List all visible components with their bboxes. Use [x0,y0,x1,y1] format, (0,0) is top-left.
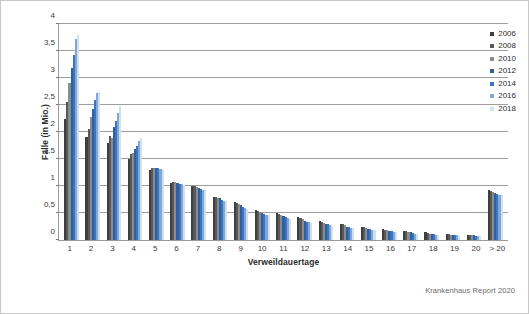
x-tick-label: 17 [407,244,416,253]
x-axis-title: Verweildauertage [59,257,508,267]
bar [98,92,100,240]
x-tick-label: 3 [110,244,114,253]
bar [289,219,291,240]
bar-group [336,24,357,240]
bar [352,228,354,240]
x-tick-label: 19 [450,244,459,253]
x-tick-label: 11 [279,244,287,253]
y-tick-label: 1 [51,173,55,182]
x-tick-label: 2 [89,244,93,253]
x-tick-label: 4 [132,244,136,253]
y-tick-label: 4 [51,11,55,20]
legend-swatch-icon [490,82,494,86]
y-tick-label: 2,5 [44,92,55,101]
legend-swatch-icon [490,44,494,48]
bar-group [464,24,485,240]
bar [77,35,79,240]
legend-item[interactable]: 2008 [490,41,516,52]
bar [373,230,375,240]
x-tick-label: 12 [300,244,309,253]
legend-item[interactable]: 2006 [490,28,516,39]
legend-swatch-icon [490,57,494,61]
x-tick-label: 13 [322,244,331,253]
legend-swatch-icon [490,94,494,98]
chart-legend: 2006200820102012201420162018 [490,28,516,114]
x-tick-label: 5 [153,244,157,253]
bar-group [61,24,82,240]
bar-group [442,24,463,240]
x-tick-label: 10 [258,244,267,253]
bar [246,209,248,240]
bar-group [103,24,124,240]
legend-item[interactable]: 2010 [490,53,516,64]
bar-group [167,24,188,240]
source-note: Krankenhaus Report 2020 [425,286,515,295]
bar [140,138,142,240]
y-tick-label: 1,5 [44,146,55,155]
bar [310,223,312,240]
bar-group [379,24,400,240]
legend-swatch-icon [490,69,494,73]
x-tick-label: 8 [217,244,221,253]
bar [268,215,270,240]
x-tick-label: 20 [471,244,480,253]
x-tick-label: 16 [386,244,395,253]
legend-label: 2016 [498,92,516,100]
x-tick-label: 14 [343,244,352,253]
bar-group [273,24,294,240]
bar-group [294,24,315,240]
legend-label: 2006 [498,30,516,38]
legend-swatch-icon [490,107,494,111]
legend-label: 2010 [498,55,516,63]
bar [162,170,164,240]
bar [119,106,121,240]
legend-item[interactable]: 2012 [490,66,516,77]
bar [183,185,185,240]
legend-item[interactable]: 2018 [490,103,516,114]
legend-item[interactable]: 2016 [490,91,516,102]
bar [458,236,460,240]
bar-group [82,24,103,240]
y-tick-label: 0,5 [44,200,55,209]
y-tick-label: 0 [51,227,55,236]
legend-label: 2012 [498,67,516,75]
bar-group [358,24,379,240]
y-tick-label: 3,5 [44,38,55,47]
bar-group [231,24,252,240]
bar [501,195,503,240]
y-tick-label: 2 [51,119,55,128]
bar-group [421,24,442,240]
x-tick-label: 7 [196,244,200,253]
x-tick-label: > 20 [489,244,505,253]
bar-group [125,24,146,240]
x-tick-label: 18 [429,244,438,253]
legend-label: 2008 [498,42,516,50]
bar [479,236,481,240]
y-tick-label: 3 [51,65,55,74]
bars-layer [59,24,508,240]
legend-swatch-icon [490,32,494,36]
bar-group [252,24,273,240]
bar-group [188,24,209,240]
bar [204,190,206,240]
legend-label: 2014 [498,80,516,88]
bar [225,201,227,240]
bar [395,232,397,240]
x-tick-label: 9 [239,244,243,253]
bar [416,234,418,240]
bar [437,235,439,240]
plot-area: Fälle (in Mio.) 00,511,522,533,54 123456… [58,24,508,241]
bar [331,226,333,240]
bar-group [400,24,421,240]
bar-group [315,24,336,240]
bar-group [146,24,167,240]
x-tick-label: 1 [67,244,71,253]
legend-label: 2018 [498,105,516,113]
legend-item[interactable]: 2014 [490,78,516,89]
x-tick-label: 15 [365,244,374,253]
x-tick-label: 6 [174,244,178,253]
chart-figure: Fälle (in Mio.) 00,511,522,533,54 123456… [0,0,529,314]
bar-group [209,24,230,240]
